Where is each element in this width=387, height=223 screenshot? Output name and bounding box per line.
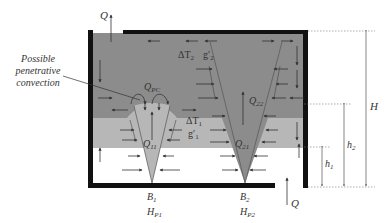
- stratification-diagram: Q Q Possible penetrative convection QPC …: [0, 0, 387, 223]
- dim-h1-label: h1: [325, 158, 334, 171]
- top-wall: [123, 30, 308, 34]
- hp1-label: HP1: [146, 206, 162, 219]
- dim-H-label: H: [369, 100, 379, 112]
- right-wall: [303, 30, 308, 188]
- dimension-guides: [304, 31, 375, 187]
- annotation-line-3: convection: [16, 77, 59, 88]
- q-outflow-label: Q: [100, 9, 108, 21]
- hp2-label: HP2: [239, 206, 256, 219]
- annotation-line-2: penetrative: [15, 65, 62, 76]
- ambient-layer: [92, 148, 304, 183]
- annotation-line-1: Possible: [20, 53, 55, 64]
- bottom-wall: [88, 183, 275, 188]
- b1-label: B1: [147, 191, 157, 204]
- q-inflow-label: Q: [291, 197, 299, 209]
- b2-label: B2: [240, 191, 250, 204]
- left-wall: [88, 30, 93, 188]
- dim-h2-label: h2: [347, 139, 356, 152]
